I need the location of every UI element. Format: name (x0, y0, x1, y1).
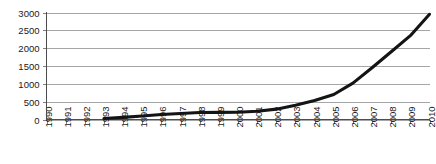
chart-canvas: 050010001500200025003000 199019911992199… (0, 0, 436, 164)
x-tick-label: 1998 (196, 106, 207, 127)
chart-background (0, 0, 436, 164)
y-tick-label: 1500 (18, 61, 39, 72)
x-tick-label: 2007 (368, 106, 379, 127)
x-tick-label: 2010 (426, 106, 436, 127)
x-tick-label: 2000 (234, 106, 245, 127)
y-tick-label: 3000 (18, 8, 39, 19)
x-axis-tick-labels: 1990199119921993199419951996199719981999… (43, 106, 436, 127)
y-tick-label: 0 (34, 115, 39, 126)
x-tick-label: 1991 (62, 106, 73, 127)
x-tick-label: 2004 (311, 106, 322, 127)
x-tick-label: 1992 (81, 106, 92, 127)
y-tick-label: 500 (24, 97, 40, 108)
x-tick-label: 2009 (406, 106, 417, 127)
x-tick-label: 2005 (330, 106, 341, 127)
x-tick-label: 1990 (43, 106, 54, 127)
x-tick-label: 2008 (387, 106, 398, 127)
x-tick-label: 2006 (349, 106, 360, 127)
x-tick-label: 1997 (177, 106, 188, 127)
y-tick-label: 1000 (18, 79, 39, 90)
y-tick-label: 2000 (18, 43, 39, 54)
x-tick-label: 2003 (291, 106, 302, 127)
y-tick-label: 2500 (18, 25, 39, 36)
x-tick-label: 1999 (215, 106, 226, 127)
line-chart: 050010001500200025003000 199019911992199… (0, 0, 436, 164)
x-tick-label: 1996 (157, 106, 168, 127)
